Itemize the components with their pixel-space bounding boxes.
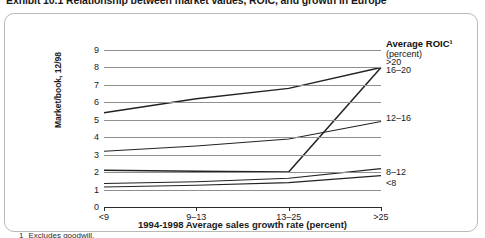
y-tick-label-4: 4 xyxy=(94,132,99,142)
gridline-6 xyxy=(104,102,381,103)
legend-entry-4: <8 xyxy=(386,178,396,188)
plot-area: 0123456789<99–1313–25>25 xyxy=(104,50,381,207)
legend-entry-2: 12–16 xyxy=(386,113,411,123)
y-tick-label-8: 8 xyxy=(94,62,99,72)
y-tick-label-2: 2 xyxy=(94,167,99,177)
gridline-3 xyxy=(104,155,381,156)
x-tick-0 xyxy=(104,207,105,211)
exhibit-title: Exhibit 10.1 Relationship between market… xyxy=(6,0,476,6)
gridline-8 xyxy=(104,67,381,68)
y-tick-label-9: 9 xyxy=(94,45,99,55)
gridline-1 xyxy=(104,190,381,191)
legend-entry-1: 16–20 xyxy=(386,65,411,75)
y-tick-label-6: 6 xyxy=(94,97,99,107)
series-line-1620 xyxy=(104,67,381,112)
chart-screenshot: Exhibit 10.1 Relationship between market… xyxy=(0,0,485,238)
y-tick-label-5: 5 xyxy=(94,115,99,125)
legend-entry-3: 8–12 xyxy=(386,167,406,177)
legend-title: Average ROIC¹ xyxy=(386,38,484,49)
footnote: 1Excludes goodwill. xyxy=(19,231,94,238)
gridline-4 xyxy=(104,137,381,138)
series-line-8 xyxy=(104,176,381,187)
x-tick-1 xyxy=(196,207,197,211)
series-lines xyxy=(104,50,381,207)
legend: Average ROIC¹ (percent) xyxy=(386,38,484,59)
x-axis-line xyxy=(104,207,381,208)
gridline-5 xyxy=(104,120,381,121)
x-axis-title: 1994-1998 Average sales growth rate (per… xyxy=(104,219,381,230)
gridline-9 xyxy=(104,50,381,51)
gridline-2 xyxy=(104,172,381,173)
y-tick-label-0: 0 xyxy=(94,202,99,212)
footnote-text: Excludes goodwill. xyxy=(28,231,94,238)
x-tick-3 xyxy=(381,207,382,211)
y-tick-label-1: 1 xyxy=(94,185,99,195)
gridline-7 xyxy=(104,85,381,86)
y-tick-label-3: 3 xyxy=(94,150,99,160)
chart-panel: Market/book, 12/98 0123456789<99–1313–25… xyxy=(4,13,478,232)
footnote-number: 1 xyxy=(19,231,23,238)
x-tick-2 xyxy=(289,207,290,211)
y-tick-label-7: 7 xyxy=(94,80,99,90)
y-axis-title: Market/book, 12/98 xyxy=(53,52,63,128)
